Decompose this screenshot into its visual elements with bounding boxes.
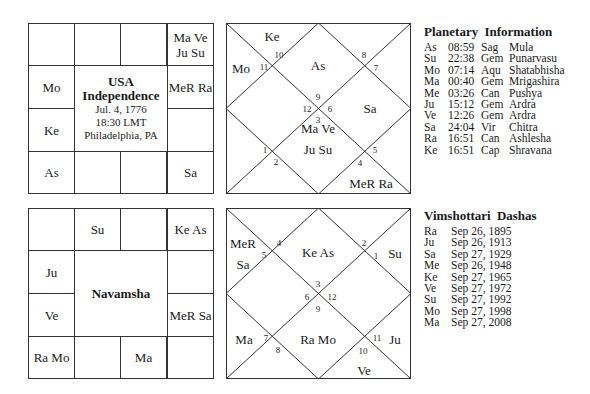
rasi-cell-gemini: Ma Ve Ju Su bbox=[167, 23, 214, 66]
planet-nakshatra: Shravana bbox=[509, 145, 552, 156]
rasi-sign-h8: 4 bbox=[358, 158, 363, 168]
dasha-date: Sep 27, 2008 bbox=[451, 317, 511, 328]
planet-nakshatra: Ashlesha bbox=[509, 133, 551, 144]
navamsha-house-5: Ma bbox=[235, 332, 252, 348]
navamsha-house-7: Ra Mo bbox=[300, 332, 336, 348]
navamsha-sign-h11: 1 bbox=[374, 251, 379, 261]
rasi-sign-h10: 6 bbox=[328, 104, 333, 114]
north-chart-lines bbox=[226, 208, 411, 379]
birth-date: Jul. 4, 1776 bbox=[95, 103, 146, 116]
rasi-cell-virgo: Sa bbox=[167, 151, 214, 194]
planet-degree: 00:40 bbox=[448, 76, 481, 87]
navamsha-sign-h4: 6 bbox=[305, 292, 310, 302]
navamsha-house-2b: Sa bbox=[237, 257, 250, 273]
rasi-cell-taurus bbox=[120, 23, 167, 66]
planet-row: Ra16:51CanAshlesha bbox=[424, 133, 565, 144]
planet-nakshatra: Mrigashira bbox=[509, 76, 559, 87]
planet-name: Ke bbox=[424, 145, 448, 156]
rasi-sign-h3: 11 bbox=[260, 62, 269, 72]
navamsha-sign-h12: 2 bbox=[362, 238, 367, 248]
navamsha-house-8: Ve bbox=[357, 363, 371, 379]
navamsha-cell-leo: MeR Sa bbox=[167, 293, 214, 337]
planet-row: Ke16:51CapShravana bbox=[424, 145, 565, 156]
rasi-cell-capricorn: Ke bbox=[28, 108, 75, 152]
rasi-sign-h5: 1 bbox=[263, 145, 268, 155]
navamsha-sign-h9: 11 bbox=[373, 333, 382, 343]
navamsha-south-chart: Su Ke As Ju Ve MeR Sa Ra Mo Ma Navamsha bbox=[28, 208, 214, 379]
dashas-title: Vimshottari Dashas bbox=[424, 208, 537, 224]
planetary-info-title: Planetary Information bbox=[424, 24, 565, 40]
navamsha-sign-h6: 8 bbox=[276, 345, 281, 355]
rasi-sign-h12: 8 bbox=[362, 50, 367, 60]
rasi-cell-cancer: MeR Ra bbox=[167, 65, 214, 109]
planetary-info-panel: Planetary Information As08:59SagMula Su2… bbox=[424, 24, 565, 156]
navamsha-cell-taurus bbox=[120, 208, 167, 251]
navamsha-sign-h3: 5 bbox=[262, 250, 267, 260]
dasha-date: Sep 26, 1948 bbox=[451, 260, 511, 271]
navamsha-house-1: Ke As bbox=[302, 245, 334, 261]
dashas-table: RaSep 26, 1895 JuSep 26, 1913 SaSep 27, … bbox=[424, 226, 537, 329]
dasha-row: MeSep 26, 1948 bbox=[424, 260, 537, 271]
navamsha-sign-h10: 12 bbox=[328, 292, 337, 302]
dasha-planet: Me bbox=[424, 260, 451, 271]
rasi-sign-h6: 2 bbox=[274, 157, 279, 167]
navamsha-center-box: Navamsha bbox=[74, 250, 168, 337]
planet-degree: 16:51 bbox=[448, 145, 481, 156]
navamsha-north-chart: Ke As MeR Sa Ma Ra Mo Ve Ju Su 3 4 5 6 7… bbox=[226, 208, 411, 379]
navamsha-sign-h7: 9 bbox=[316, 304, 321, 314]
chart-title-line2: Independence bbox=[82, 89, 159, 103]
navamsha-sign-h1: 3 bbox=[316, 279, 321, 289]
planetary-info-table: As08:59SagMula Su22:38GemPunarvasu Mo07:… bbox=[424, 42, 565, 156]
rasi-sign-h2: 10 bbox=[275, 50, 284, 60]
rasi-sign-h1: 9 bbox=[316, 92, 321, 102]
navamsha-cell-scorpio bbox=[74, 336, 121, 379]
navamsha-cell-cancer bbox=[167, 250, 214, 294]
planet-sign: Gem bbox=[481, 76, 509, 87]
navamsha-cell-aries: Su bbox=[74, 208, 121, 251]
rasi-cell-aquarius: Mo bbox=[28, 65, 75, 109]
rasi-house-2: Ke bbox=[264, 29, 279, 45]
planet-name: Ma bbox=[424, 76, 448, 87]
dashas-panel: Vimshottari Dashas RaSep 26, 1895 JuSep … bbox=[424, 208, 537, 329]
planet-sign: Can bbox=[481, 133, 509, 144]
navamsha-cell-capricorn: Ve bbox=[28, 293, 75, 337]
navamsha-house-11: Su bbox=[388, 246, 402, 262]
rasi-cell-scorpio bbox=[74, 151, 121, 194]
planet-degree: 16:51 bbox=[448, 133, 481, 144]
navamsha-cell-libra: Ma bbox=[120, 336, 167, 379]
rasi-house-7b: Ju Su bbox=[304, 142, 333, 158]
rasi-cell-libra bbox=[120, 151, 167, 194]
rasi-house-3: Mo bbox=[232, 61, 250, 77]
navamsha-cell-pisces bbox=[28, 208, 75, 251]
chart-title-line1: USA bbox=[108, 75, 134, 89]
rasi-sign-h9: 5 bbox=[373, 145, 378, 155]
rasi-cell-sagittarius: As bbox=[28, 151, 75, 194]
rasi-north-chart: As Ke Mo Ma Ve Ju Su MeR Ra Sa 9 10 11 1… bbox=[226, 23, 411, 194]
navamsha-sign-h5: 7 bbox=[264, 333, 269, 343]
rasi-house-1: As bbox=[311, 58, 325, 74]
navamsha-cell-aquarius: Ju bbox=[28, 250, 75, 294]
rasi-house-8: MeR Ra bbox=[349, 176, 393, 192]
navamsha-cell-sagittarius: Ra Mo bbox=[28, 336, 75, 379]
dasha-row: MaSep 27, 2008 bbox=[424, 317, 537, 328]
navamsha-sign-h8: 10 bbox=[359, 346, 368, 356]
dasha-planet: Ma bbox=[424, 317, 451, 328]
rasi-cell-leo bbox=[167, 108, 214, 152]
navamsha-cell-virgo bbox=[167, 336, 214, 379]
planet-name: Ra bbox=[424, 133, 448, 144]
navamsha-title: Navamsha bbox=[92, 287, 151, 301]
rasi-center-box: USA Independence Jul. 4, 1776 18:30 LMT … bbox=[74, 65, 168, 152]
navamsha-sign-h2: 4 bbox=[277, 238, 282, 248]
navamsha-cell-gemini: Ke As bbox=[167, 208, 214, 251]
navamsha-house-9: Ju bbox=[389, 332, 401, 348]
planet-sign: Cap bbox=[481, 145, 509, 156]
rasi-south-chart: Ma Ve Ju Su Mo MeR Ra Ke As Sa USA Indep… bbox=[28, 23, 214, 194]
rasi-cell-pisces bbox=[28, 23, 75, 66]
rasi-sign-h7: 3 bbox=[316, 115, 321, 125]
rasi-sign-h11: 7 bbox=[374, 63, 379, 73]
planet-row: Ma00:40GemMrigashira bbox=[424, 76, 565, 87]
north-chart-lines bbox=[226, 23, 411, 194]
rasi-house-10: Sa bbox=[364, 101, 377, 117]
birth-time: 18:30 LMT bbox=[95, 116, 146, 129]
navamsha-house-2a: MeR bbox=[230, 236, 256, 252]
